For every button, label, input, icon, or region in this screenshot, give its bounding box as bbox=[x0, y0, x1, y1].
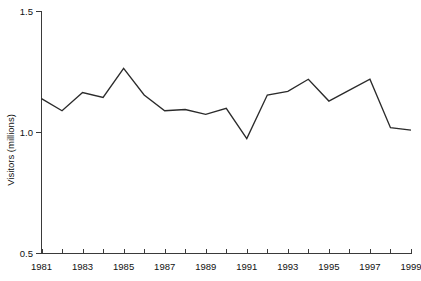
y-axis-title: Visitors (millions) bbox=[5, 114, 16, 186]
x-tick-label: 1983 bbox=[72, 261, 93, 272]
visitors-line-chart: Visitors (millions) 1.5 1.0 0.5 19811983… bbox=[0, 0, 421, 281]
x-axis-tick-labels: 1981198319851987198919911993199519971999 bbox=[31, 261, 421, 272]
x-tick-label: 1985 bbox=[113, 261, 134, 272]
y-axis-tick-labels: 1.5 1.0 0.5 bbox=[20, 6, 33, 259]
y-tick-label: 1.0 bbox=[20, 127, 33, 138]
chart-plot-area: Visitors (millions) 1.5 1.0 0.5 19811983… bbox=[0, 0, 421, 281]
x-tick-label: 1995 bbox=[318, 261, 339, 272]
x-axis-ticks bbox=[43, 249, 412, 254]
y-tick-label: 0.5 bbox=[20, 248, 33, 259]
x-tick-label: 1997 bbox=[359, 261, 380, 272]
y-tick-label: 1.5 bbox=[20, 6, 33, 17]
series-visitors-line bbox=[42, 68, 412, 138]
x-tick-label: 1993 bbox=[277, 261, 298, 272]
x-tick-label: 1999 bbox=[400, 261, 421, 272]
x-tick-label: 1981 bbox=[31, 261, 52, 272]
x-tick-label: 1991 bbox=[236, 261, 257, 272]
y-axis-ticks bbox=[36, 12, 42, 254]
x-tick-label: 1989 bbox=[195, 261, 216, 272]
x-tick-label: 1987 bbox=[154, 261, 175, 272]
